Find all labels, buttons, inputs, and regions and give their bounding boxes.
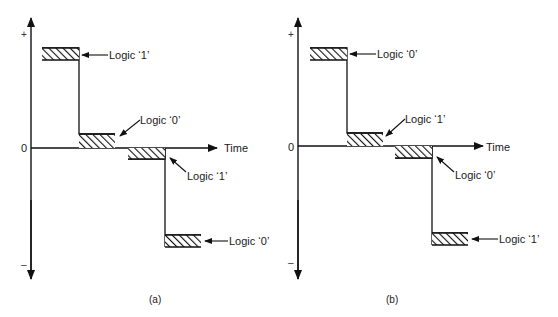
panel-caption: (b) xyxy=(386,294,398,305)
waveform-upper xyxy=(42,48,115,134)
level-label: Logic ‘0’ xyxy=(229,235,269,247)
pointer-arrow-icon xyxy=(120,120,140,136)
zero-label: 0 xyxy=(288,141,294,153)
pointer-arrow-icon xyxy=(437,157,454,172)
level-label: Logic ‘0’ xyxy=(377,48,417,60)
zero-label: 0 xyxy=(21,142,27,154)
panel-a: Time + 0 – Logic ‘1’ Logic ‘0’ Logic ‘1’… xyxy=(21,18,269,305)
pointer-arrow-icon xyxy=(386,119,405,136)
level-label: Logic ‘1’ xyxy=(187,170,227,182)
plus-sign: + xyxy=(288,29,294,40)
band-level-4 xyxy=(432,233,468,245)
level-label: Logic ‘1’ xyxy=(109,49,149,61)
level-label: Logic ‘1’ xyxy=(499,233,539,245)
panel-caption: (a) xyxy=(149,294,161,305)
plus-sign: + xyxy=(21,29,27,40)
panel-b: Time + 0 – Logic ‘0’ Logic ‘1’ Logic ‘0’… xyxy=(288,18,539,305)
time-axis-label: Time xyxy=(224,142,248,154)
band-level-1 xyxy=(310,48,347,60)
time-axis-label: Time xyxy=(486,141,510,153)
band-level-2 xyxy=(79,135,115,148)
level-label: Logic ‘1’ xyxy=(405,113,445,125)
logic-levels-diagram: Time + 0 – Logic ‘1’ Logic ‘0’ Logic ‘1’… xyxy=(0,0,558,317)
band-level-1 xyxy=(42,48,79,60)
waveform-upper xyxy=(310,48,383,133)
level-label: Logic ‘0’ xyxy=(140,114,180,126)
band-level-3 xyxy=(395,146,432,158)
minus-sign: – xyxy=(288,257,294,268)
band-level-2 xyxy=(347,134,383,146)
pointer-arrow-icon xyxy=(170,158,186,172)
minus-sign: – xyxy=(21,259,27,270)
band-level-3 xyxy=(128,148,165,159)
band-level-4 xyxy=(165,235,201,247)
level-label: Logic ‘0’ xyxy=(455,169,495,181)
